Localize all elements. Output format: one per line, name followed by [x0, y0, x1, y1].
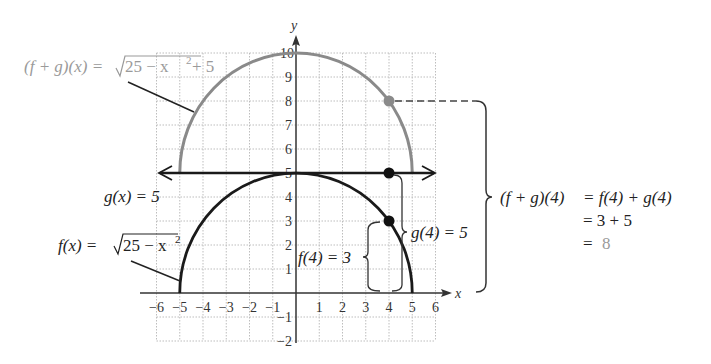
svg-text:2: 2	[186, 54, 192, 66]
svg-text:3: 3	[362, 300, 369, 315]
equation-line-3-eq: =	[583, 234, 593, 253]
svg-text:8: 8	[285, 94, 292, 109]
svg-text:f(x) =: f(x) =	[58, 236, 97, 255]
svg-text:25 − x: 25 − x	[123, 236, 167, 255]
svg-text:−6: −6	[149, 300, 164, 315]
svg-text:−3: −3	[219, 300, 234, 315]
svg-text:6: 6	[285, 142, 292, 157]
svg-text:1: 1	[285, 262, 292, 277]
y-axis-label: y	[289, 18, 298, 33]
equation-line-2: = 3 + 5	[583, 211, 632, 230]
function-sum-diagram: x y −6 −5 −4 −3 −2 −1 1 2 3 4 5 6 10 9 8…	[0, 0, 711, 364]
svg-text:1: 1	[316, 300, 323, 315]
svg-text:25 − x: 25 − x	[125, 57, 169, 76]
svg-text:6: 6	[432, 300, 439, 315]
svg-text:2: 2	[285, 238, 292, 253]
x-tick-labels: −6 −5 −4 −3 −2 −1 1 2 3 4 5 6	[149, 300, 439, 315]
equation-line-1: = f(4) + g(4)	[583, 188, 672, 207]
x-axis-label: x	[454, 286, 462, 301]
svg-text:−4: −4	[196, 300, 211, 315]
g4-label: g(4) = 5	[411, 223, 468, 242]
g4-brace	[392, 175, 407, 291]
svg-text:9: 9	[285, 70, 292, 85]
svg-text:−1: −1	[277, 310, 292, 325]
svg-text:2: 2	[175, 233, 181, 245]
svg-text:(f + g)(x) =: (f + g)(x) =	[24, 57, 103, 76]
svg-text:3: 3	[285, 214, 292, 229]
equation-result: 8	[602, 234, 611, 253]
axes	[140, 35, 452, 343]
svg-text:7: 7	[285, 118, 292, 133]
f-label-leader	[131, 261, 180, 281]
f-function-label: f(x) = 25 − x 2	[58, 233, 181, 255]
svg-text:5: 5	[409, 300, 416, 315]
sum-label-leader	[128, 82, 194, 112]
sum-point	[384, 96, 395, 107]
f4-brace	[363, 222, 380, 291]
g-function-label: g(x) = 5	[104, 187, 160, 206]
big-brace	[476, 101, 492, 292]
svg-text:4: 4	[285, 190, 292, 205]
svg-text:+ 5: + 5	[192, 57, 214, 76]
f-point	[384, 216, 395, 227]
svg-text:2: 2	[339, 300, 346, 315]
equation-lhs: (f + g)(4)	[500, 188, 565, 207]
g-point	[384, 168, 395, 179]
svg-text:4: 4	[386, 300, 393, 315]
f4-label: f(4) = 3	[298, 248, 351, 267]
svg-text:−2: −2	[242, 300, 257, 315]
equation-block: (f + g)(4) = f(4) + g(4) = 3 + 5 = 8	[500, 188, 672, 253]
svg-text:−5: −5	[172, 300, 187, 315]
svg-text:−2: −2	[277, 334, 292, 349]
sum-function-label: (f + g)(x) = 25 − x 2 + 5	[24, 54, 214, 76]
